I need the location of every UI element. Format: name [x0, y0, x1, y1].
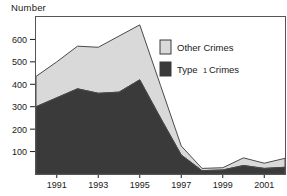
y-tick-label: 600 — [12, 35, 27, 45]
legend-label-other-crimes: Other Crimes — [177, 42, 234, 53]
y-tick-label: 400 — [12, 80, 27, 90]
x-tick-label: 1999 — [213, 180, 233, 190]
x-tick-label: 1997 — [171, 180, 191, 190]
y-tick-label: 300 — [12, 102, 27, 112]
y-tick-label: 200 — [12, 125, 27, 135]
area-chart: 100200300400500600 199119931995199719992… — [0, 0, 287, 196]
chart-figure: Number 100200300400500600 19911993199519… — [0, 0, 287, 196]
legend-swatch-type-1-crimes — [160, 62, 171, 76]
x-tick-label: 2001 — [254, 180, 274, 190]
x-tick-label: 1995 — [130, 180, 150, 190]
legend-label-type-1-crimes-suffix: Crimes — [209, 64, 239, 75]
y-axis-ticks: 100200300400500600 — [12, 35, 36, 157]
y-tick-label: 500 — [12, 57, 27, 67]
y-tick-label: 100 — [12, 147, 27, 157]
x-tick-label: 1993 — [88, 180, 108, 190]
chart-legend: Other Crimes Type 1 Crimes — [160, 40, 239, 76]
x-axis-ticks: 199119931995199719992001 — [47, 174, 275, 190]
x-tick-label: 1991 — [47, 180, 67, 190]
legend-label-type-1-crimes-number: 1 — [203, 66, 207, 75]
legend-swatch-other-crimes — [160, 40, 171, 54]
legend-label-type-1-crimes-prefix: Type — [177, 64, 198, 75]
